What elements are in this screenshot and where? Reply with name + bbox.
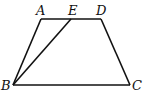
segment-AB (13, 19, 41, 85)
label-C: C (132, 78, 142, 93)
label-A: A (35, 3, 45, 18)
label-E: E (67, 3, 78, 18)
label-D: D (95, 3, 107, 18)
trapezoid-diagram: A E D B C (0, 0, 144, 97)
label-B: B (0, 78, 11, 93)
segment-BE (13, 19, 71, 85)
segment-DC (101, 19, 130, 85)
